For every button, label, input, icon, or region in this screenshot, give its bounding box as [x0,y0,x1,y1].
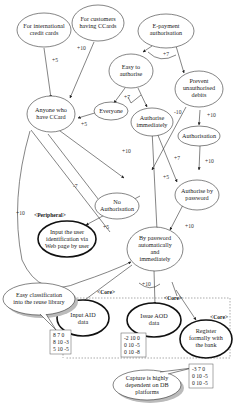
edge-label: +7 [124,94,130,100]
edge-label: -10 [174,109,182,115]
edge-label: +10 [16,210,25,216]
tag-peripheral: <Peripheral> [34,212,66,218]
label-auth-immediately: Authoriseimmediately [137,114,169,128]
callout-reuse-text: Easy classificationinto the reuse librar… [13,291,65,305]
edge-label: -7 [73,183,78,189]
edge-label: +10 [207,112,216,118]
goal-graph-diagram: For internationalcredit cards For custom… [0,0,234,410]
tag-core-left: <Core> [97,289,115,295]
label-authorisation: Authorisation [182,132,216,139]
label-easy-auth: Easy toauthorise [120,63,143,77]
edge-label: +5 [52,57,58,63]
label-epayment: E-paymentauthorisation [150,22,182,36]
edge-label: +10 [185,223,194,229]
edge-label: +10 [77,45,86,51]
edge-label: +7 [163,51,169,57]
tag-core-mid: <Core> [164,295,182,301]
label-input-user-id: Input the useridentification viaWeb page… [45,228,89,249]
label-anyone-ccard: Anyone whohave CCard [35,106,67,120]
edge-label: +5 [103,224,109,230]
label-everyone: Everyone [99,107,123,114]
matrix-middle: -2 10 00 10 -50 10 -8 [124,335,140,355]
edge-label: +5 [81,121,87,127]
edges [18,42,201,320]
label-ccards-customers: For customershaving CCards [80,15,118,29]
edge-label: +5 [163,174,169,180]
edge-label: +10 [142,281,151,287]
edge-label: +10 [122,148,131,154]
edge-label: +10 [205,158,214,164]
edge-label: +7 [174,155,180,161]
tag-core-right: <Core> [210,314,228,320]
